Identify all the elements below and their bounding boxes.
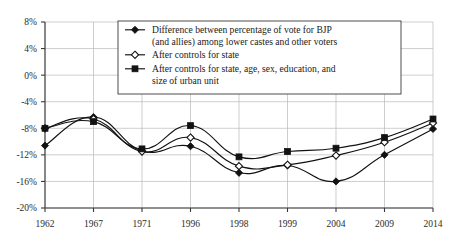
marker-filled-square (42, 125, 48, 131)
y-axis-label: 4% (24, 44, 37, 54)
legend-item-1: Difference between percentage of vote fo… (125, 24, 337, 48)
chart-legend: Difference between percentage of vote fo… (118, 21, 401, 94)
y-axis-label: -8% (21, 124, 37, 134)
x-axis-label: 1996 (181, 219, 200, 229)
marker-filled-square (236, 154, 242, 160)
x-axis-label: 2004 (327, 219, 346, 229)
x-axis-label: 1998 (230, 219, 249, 229)
legend-label: After controls for state, age, sex, educ… (152, 63, 336, 74)
marker-filled-square (382, 135, 388, 141)
marker-filled-square (188, 123, 194, 129)
legend-label: size of urban unit (152, 75, 219, 86)
legend-label: After controls for state (152, 49, 239, 60)
chart-container: 8%4%0%-4%-8%-12%-16%-20% 196219671971199… (0, 0, 450, 248)
legend-label: (and allies) among lower castes and othe… (152, 36, 337, 48)
y-axis-label: -16% (16, 177, 37, 187)
legend-label: Difference between percentage of vote fo… (152, 24, 332, 35)
marker-filled-square (333, 145, 339, 151)
y-axis-label: 8% (24, 17, 37, 27)
y-axis-label: -4% (21, 97, 37, 107)
x-axis-tick-labels: 196219671971199619981999200420092014 (36, 219, 443, 229)
x-axis-label: 1967 (84, 219, 103, 229)
x-axis-label: 2014 (424, 219, 443, 229)
line-chart: 8%4%0%-4%-8%-12%-16%-20% 196219671971199… (0, 0, 450, 248)
x-axis-label: 1962 (36, 219, 55, 229)
marker-filled-square (430, 116, 436, 122)
x-axis-label: 2009 (375, 219, 394, 229)
y-axis-label: 0% (24, 71, 37, 81)
marker-filled-square (132, 66, 138, 72)
marker-filled-square (91, 119, 97, 125)
marker-filled-square (139, 146, 145, 152)
x-axis-label: 1971 (133, 219, 152, 229)
y-axis-label: -20% (16, 203, 37, 213)
marker-filled-square (285, 149, 291, 155)
y-axis-label: -12% (16, 150, 37, 160)
x-axis-label: 1999 (278, 219, 297, 229)
